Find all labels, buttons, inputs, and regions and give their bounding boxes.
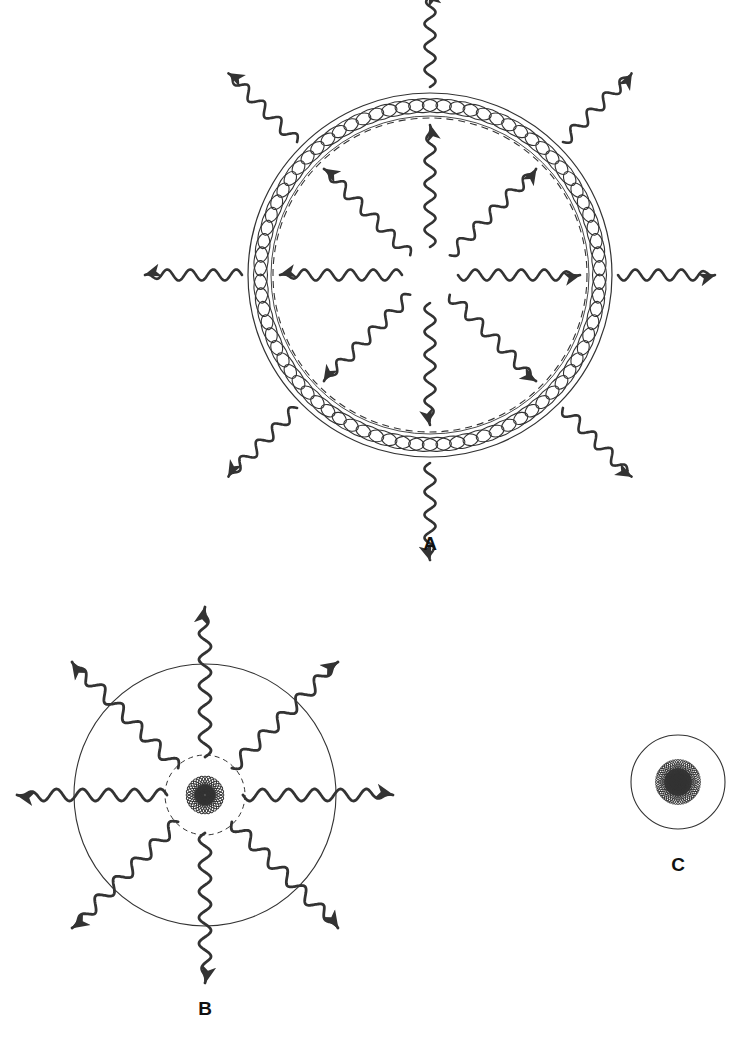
coil-turn (354, 105, 386, 128)
coil-turn (588, 287, 606, 318)
rosette-outline-circle (631, 735, 725, 829)
panel-labels: ABC (198, 533, 685, 1019)
panel-label-a: A (423, 533, 437, 554)
rosette-petal-r0 (190, 776, 220, 814)
panel-label-c: C (671, 854, 685, 875)
radiating-wavy-arrow-0 (199, 607, 211, 757)
panel-c (631, 735, 725, 829)
coil-turn (408, 437, 438, 452)
inner-wavy-arrow-1 (450, 169, 536, 256)
outer-wavy-arrow-6 (145, 270, 242, 281)
coil-turn (532, 138, 563, 168)
outer-wavy-arrow-7 (228, 73, 297, 142)
inner-wavy-arrow-2 (458, 270, 580, 281)
coil-turn (354, 422, 386, 445)
radiating-wavy-arrow-5 (72, 821, 178, 928)
figure-root: ABC (0, 0, 753, 1047)
coil-turn (422, 98, 452, 113)
coil-turn (254, 261, 268, 290)
coil-turn (255, 219, 276, 251)
outer-wavy-arrow-5 (228, 407, 297, 476)
coil-turn (588, 232, 606, 263)
radiating-wavy-arrow-4 (199, 833, 211, 983)
outer-wavy-arrow-2 (618, 270, 715, 281)
coil-turn (448, 431, 479, 451)
coil-turn (448, 99, 479, 119)
coil-turn (408, 98, 438, 113)
coil-turn (380, 99, 411, 119)
inner-wavy-arrow-0 (425, 125, 436, 247)
radiating-wavy-arrow-6 (17, 789, 167, 801)
figure-canvas: ABC (0, 0, 753, 1047)
outer-wavy-arrow-1 (563, 73, 632, 142)
radiating-wavy-arrow-7 (72, 662, 179, 768)
panel-b (17, 607, 393, 983)
panel-label-b: B (198, 998, 212, 1019)
coil-turn (593, 261, 607, 290)
rosette-petal-r0 (186, 780, 224, 810)
coil-turn (584, 219, 605, 251)
inner-wavy-arrow-7 (324, 169, 411, 255)
coil-turn (253, 287, 271, 318)
coil-turn (253, 232, 271, 263)
rosette-dashed-boundary (165, 755, 245, 835)
panel-a (145, 0, 715, 560)
coil-turn (532, 382, 563, 412)
radiating-wavy-arrow-3 (231, 822, 338, 928)
coil-turn (474, 422, 506, 445)
coil-turn (380, 431, 411, 451)
inner-wavy-arrow-4 (425, 303, 436, 425)
radiating-wavy-arrow-2 (243, 789, 393, 801)
inner-wavy-arrow-6 (280, 270, 402, 281)
inner-wavy-arrow-5 (324, 294, 410, 381)
outer-wavy-arrow-3 (562, 408, 631, 477)
radiating-wavy-arrow-1 (232, 662, 338, 769)
coil-turn (474, 105, 506, 128)
coil-turn (255, 300, 276, 332)
outer-wavy-arrow-0 (425, 0, 436, 87)
rosette-petal-r0 (186, 780, 224, 810)
coil-turn (297, 382, 328, 412)
coil-turn (297, 138, 328, 168)
inner-wavy-arrow-3 (449, 295, 536, 381)
rosette-petal-r0 (190, 776, 220, 814)
outer-circle (248, 93, 612, 457)
coil-turn (584, 300, 605, 332)
coil-turn (422, 437, 452, 452)
